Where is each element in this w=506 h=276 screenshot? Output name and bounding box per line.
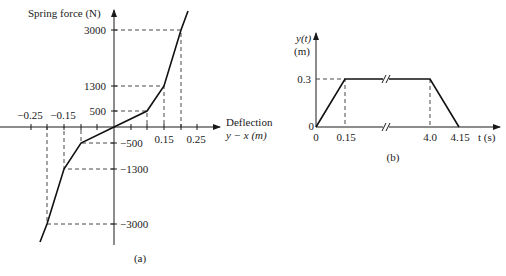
y-axis-label-b-line1: y(t): [295, 32, 312, 45]
figure: Spring force (N) 3000 1300 500 −500 −130…: [0, 0, 506, 276]
axis-break-marks: [382, 74, 390, 132]
y-tick-0.3: 0.3: [297, 73, 311, 85]
t-tick-4.0: 4.0: [423, 131, 437, 143]
t-tick-0.15: 0.15: [336, 131, 356, 143]
chart-a: Spring force (N) 3000 1300 500 −500 −130…: [0, 7, 273, 265]
x-tick-neg025: −0.25: [17, 109, 43, 121]
t-tick-0: 0: [313, 131, 319, 143]
t-axis-label: t (s): [478, 131, 496, 144]
chart-b: y(t) (m) 0.3 0 0 0.15 4.0 4.15 t (s) (b): [294, 32, 500, 164]
y-axis-label: Spring force (N): [28, 7, 101, 20]
caption-a: (a): [134, 252, 147, 265]
caption-b: (b): [387, 151, 400, 164]
y-tick-500: 500: [90, 105, 107, 117]
x-axis-label-line1: Deflection: [226, 116, 273, 128]
y-tick-neg500: −500: [120, 137, 143, 149]
y-axis-label-b-line2: (m): [294, 45, 310, 58]
t-tick-4.15: 4.15: [450, 131, 470, 143]
x-tick-neg015: −0.15: [50, 109, 76, 121]
y-tick-neg1300: −1300: [120, 163, 149, 175]
x-tick-015: 0.15: [154, 133, 174, 145]
displacement-curve: [316, 79, 459, 127]
y-tick-1300: 1300: [84, 80, 107, 92]
x-tick-025: 0.25: [186, 133, 206, 145]
x-axis-label-line2: y − x (m): [225, 129, 267, 142]
y-tick-3000: 3000: [84, 24, 107, 36]
y-tick-neg3000: −3000: [120, 218, 149, 230]
